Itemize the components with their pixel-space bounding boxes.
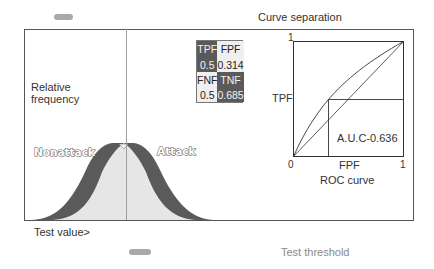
roc-tick-zero: 0 <box>288 159 294 170</box>
roc-fpf-label: FPF <box>339 159 360 171</box>
roc-auc-label: A.U.C-0.636 <box>337 132 398 144</box>
roc-x-tick-one: 1 <box>400 159 406 170</box>
test-threshold-label: Test threshold <box>281 246 349 258</box>
roc-y-tick-one: 1 <box>288 32 294 43</box>
test-threshold-slider-handle[interactable] <box>129 249 151 255</box>
roc-tpf-label: TPF <box>272 92 293 104</box>
roc-title: ROC curve <box>320 174 374 186</box>
